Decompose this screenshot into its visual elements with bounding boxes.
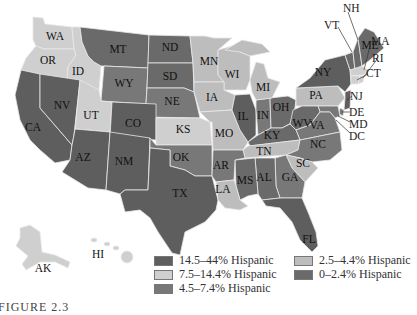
legend-item-4-7: 4.5–7.4% Hispanic (154, 281, 271, 296)
label-ga: GA (282, 171, 299, 183)
label-nj: NJ (350, 90, 363, 102)
label-oh: OH (273, 101, 290, 113)
legend-swatch (154, 270, 173, 280)
label-nh: NH (343, 2, 360, 14)
label-ky: KY (264, 129, 281, 141)
label-ne: NE (164, 95, 179, 107)
legend-item-2-4: 2.5–4.4% Hispanic (294, 253, 411, 268)
legend-label: 2.5–4.4% Hispanic (319, 253, 411, 268)
label-ak: AK (35, 262, 52, 274)
label-il: IL (238, 110, 249, 122)
legend-item-7-14: 7.5–14.4% Hispanic (154, 267, 277, 282)
label-ut: UT (83, 109, 98, 121)
label-tx: TX (172, 187, 188, 199)
legend-label: 0–2.4% Hispanic (319, 267, 402, 282)
label-mo: MO (215, 127, 234, 139)
label-ar: AR (213, 159, 229, 171)
label-wa: WA (46, 30, 65, 42)
label-co: CO (125, 117, 141, 129)
legend-swatch (294, 270, 313, 280)
label-nm: NM (115, 155, 134, 167)
label-sd: SD (163, 70, 178, 82)
label-nv: NV (54, 99, 71, 111)
legend-swatch (294, 256, 313, 266)
label-dc: DC (349, 130, 365, 142)
label-mn: MN (200, 55, 219, 67)
label-sc: SC (296, 157, 310, 169)
label-md: MD (349, 118, 368, 130)
label-ct: CT (366, 67, 381, 79)
label-tn: TN (256, 145, 272, 157)
label-de: DE (349, 106, 364, 118)
legend-swatch (154, 284, 173, 294)
label-in: IN (257, 109, 270, 121)
legend-item-14-44: 14.5–44% Hispanic (154, 253, 274, 268)
label-mi: MI (256, 81, 270, 93)
label-ca: CA (25, 121, 42, 133)
legend-label: 7.5–14.4% Hispanic (179, 267, 277, 282)
label-ri: RI (372, 52, 384, 64)
label-la: LA (215, 183, 231, 195)
label-fl: FL (302, 233, 315, 245)
label-mt: MT (109, 43, 126, 55)
label-ms: MS (237, 174, 254, 186)
label-ny: NY (315, 66, 332, 78)
label-ok: OK (173, 151, 190, 163)
label-vt: VT (324, 19, 339, 31)
figure-caption: FIGURE 2.3 (0, 300, 69, 315)
label-nc: NC (310, 138, 326, 150)
label-id: ID (72, 65, 84, 77)
label-wy: WY (114, 77, 134, 89)
label-ia: IA (206, 91, 219, 103)
label-al: AL (256, 171, 271, 183)
label-nd: ND (162, 41, 179, 53)
label-or: OR (40, 54, 56, 66)
legend-item-0-2: 0–2.4% Hispanic (294, 267, 402, 282)
label-va: VA (309, 119, 325, 131)
label-ks: KS (176, 123, 191, 135)
legend-swatch (154, 256, 173, 266)
label-pa: PA (309, 89, 323, 101)
legend-label: 14.5–44% Hispanic (179, 253, 274, 268)
label-az: AZ (75, 151, 90, 163)
legend-label: 4.5–7.4% Hispanic (179, 281, 271, 296)
label-ma: MA (371, 35, 390, 47)
label-wi: WI (225, 68, 240, 80)
label-hi: HI (92, 248, 104, 260)
